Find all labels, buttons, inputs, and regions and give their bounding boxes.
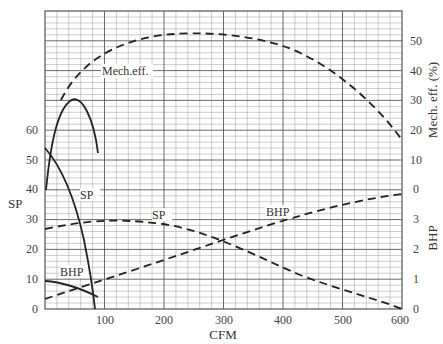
- y-axis-left-ticks: 0 10 20 30 40 50 60: [26, 123, 38, 316]
- sp-large-curve-label: SP: [152, 208, 166, 222]
- x-axis-label: CFM: [209, 327, 237, 342]
- bhp-small-curve-label: BHP: [60, 265, 84, 279]
- y-tick: 60: [26, 123, 38, 137]
- mech-eff-curve-label: Mech.eff.: [102, 64, 148, 78]
- y-tick: 20: [26, 242, 38, 256]
- y-axis-right-bhp-ticks: 3 2 1 0: [413, 212, 419, 316]
- fan-performance-chart: Mech.eff. SP SP BHP BHP 0 10 20 30 40 50…: [0, 0, 443, 344]
- y-right-tick: 3: [413, 212, 419, 226]
- x-tick: 300: [215, 313, 233, 327]
- y-right-tick: 20: [410, 123, 422, 137]
- y-right-tick: 30: [410, 93, 422, 107]
- bhp-small-solid-curve: [45, 281, 98, 297]
- curve-labels: Mech.eff. SP SP BHP BHP: [60, 64, 293, 279]
- major-grid: [45, 11, 402, 309]
- y-axis-right-mech-eff-label: Mech. eff. (%): [425, 62, 440, 138]
- sp-small-curve-label: SP: [80, 188, 94, 202]
- y-right-tick: 40: [410, 64, 422, 78]
- y-tick: 40: [26, 182, 38, 196]
- y-axis-right-mech-eff-ticks: 50 40 30 20 10 0: [410, 34, 422, 196]
- y-tick: 50: [26, 153, 38, 167]
- y-right-tick: 10: [410, 153, 422, 167]
- y-tick: 10: [26, 272, 38, 286]
- y-right-tick: 0: [413, 302, 419, 316]
- bhp-large-curve-label: BHP: [266, 205, 290, 219]
- y-right-tick: 1: [413, 272, 419, 286]
- x-tick: 100: [96, 313, 114, 327]
- y-right-tick: 2: [413, 242, 419, 256]
- x-tick: 200: [155, 313, 173, 327]
- y-axis-left-label: SP: [8, 196, 22, 211]
- y-right-tick: 50: [410, 34, 422, 48]
- x-tick: 500: [334, 313, 352, 327]
- y-tick: 0: [32, 302, 38, 316]
- x-tick: 600: [391, 313, 409, 327]
- x-tick: 400: [274, 313, 292, 327]
- y-tick: 30: [26, 212, 38, 226]
- y-right-tick: 0: [413, 182, 419, 196]
- y-axis-right-bhp-label: BHP: [425, 225, 440, 250]
- mech-eff-small-solid-curve: [46, 99, 98, 190]
- x-axis-ticks: 100 200 300 400 500 600: [96, 313, 409, 327]
